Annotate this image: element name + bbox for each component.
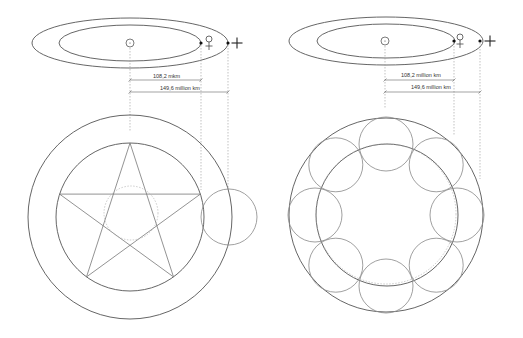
venus-dot	[199, 41, 202, 44]
venus-distance-label: 108,2 million km	[401, 72, 441, 78]
earth-dot	[478, 39, 481, 42]
small-circle	[288, 188, 342, 242]
earth-symbol-icon	[232, 38, 243, 49]
earth-distance-label: 149,6 million km	[411, 84, 451, 90]
small-circle	[409, 238, 463, 292]
sun-icon	[126, 39, 134, 47]
small-circle	[430, 188, 484, 242]
venus-symbol-icon	[206, 36, 213, 50]
small-circle	[309, 238, 363, 292]
sun-icon	[381, 37, 389, 45]
left-diagram: 108,2 mkm 149,6 million km	[28, 18, 257, 319]
venus-orbit-circle	[316, 144, 458, 286]
venus-symbol-icon	[457, 34, 464, 48]
earth-orbit-circle	[289, 118, 483, 312]
diagram-canvas: 108,2 mkm 149,6 million km	[0, 0, 523, 338]
earth-distance-dimension	[384, 91, 482, 94]
venus-orbit-ellipse	[317, 24, 455, 58]
venus-dot	[452, 39, 455, 42]
earth-symbol-icon	[485, 36, 496, 47]
venus-distance-label: 108,2 mkm	[153, 73, 181, 79]
venus-orbit-circle	[56, 143, 204, 291]
pentagram	[60, 143, 201, 277]
right-diagram: 108,2 million km 149,6 million km	[288, 17, 496, 313]
venus-distance-dimension	[384, 79, 456, 82]
earth-dot	[226, 41, 229, 44]
earth-distance-label: 149,6 million km	[160, 85, 200, 91]
earth-size-circle	[201, 189, 257, 245]
